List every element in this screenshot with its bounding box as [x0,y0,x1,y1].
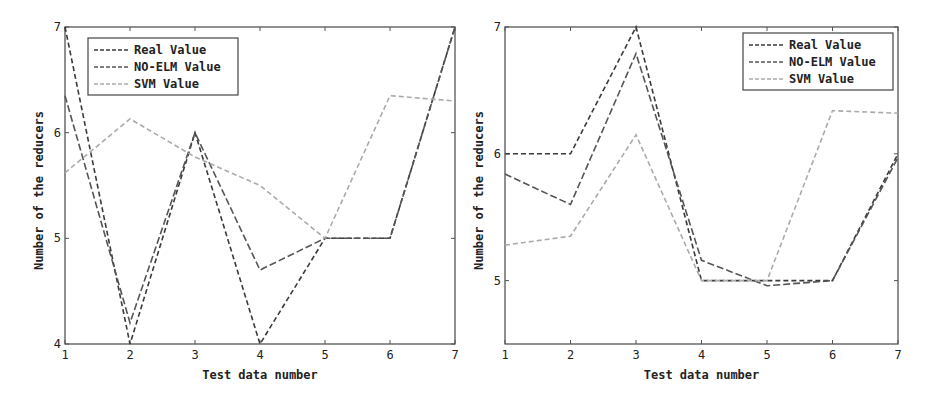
x-tick-label: 1 [61,348,68,362]
y-tick-label: 7 [54,20,61,34]
legend: Real ValueNO-ELM ValueSVM Value [88,38,238,95]
y-tick-label: 6 [494,147,501,161]
x-tick-label: 7 [451,348,458,362]
x-tick-label: 2 [126,348,133,362]
y-tick-label: 7 [494,20,501,34]
y-tick-label: 5 [494,274,501,288]
x-tick-label: 3 [191,348,198,362]
x-tick-label: 5 [321,348,328,362]
x-tick-label: 2 [567,348,574,362]
legend: Real ValueNO-ELM ValueSVM Value [743,33,893,90]
y-tick-label: 6 [54,126,61,140]
x-tick-label: 1 [501,348,508,362]
legend-label: SVM Value [789,72,854,86]
x-tick-label: 6 [386,348,393,362]
line-chart-left: 12345674567Test data numberNumber of the… [0,0,466,398]
legend-label: Real Value [789,38,861,52]
y-tick-label: 4 [54,337,61,351]
legend-label: Real Value [134,43,206,57]
y-axis-title: Number of the reducers [32,111,46,270]
legend-label: NO-ELM Value [789,55,876,69]
chart-right: 1234567567Test data numberNumber of the … [466,0,932,398]
x-tick-label: 5 [763,348,770,362]
line-chart-right: 1234567567Test data numberNumber of the … [466,0,932,398]
x-axis-title: Test data number [644,368,760,382]
x-tick-label: 4 [698,348,705,362]
x-tick-label: 3 [632,348,639,362]
x-tick-label: 4 [256,348,263,362]
y-tick-label: 5 [54,231,61,245]
x-tick-label: 7 [894,348,901,362]
x-axis-title: Test data number [202,368,318,382]
chart-left: 12345674567Test data numberNumber of the… [0,0,466,398]
legend-label: NO-ELM Value [134,60,221,74]
legend-label: SVM Value [134,77,199,91]
x-tick-label: 6 [829,348,836,362]
y-axis-title: Number of the reducers [472,111,486,270]
